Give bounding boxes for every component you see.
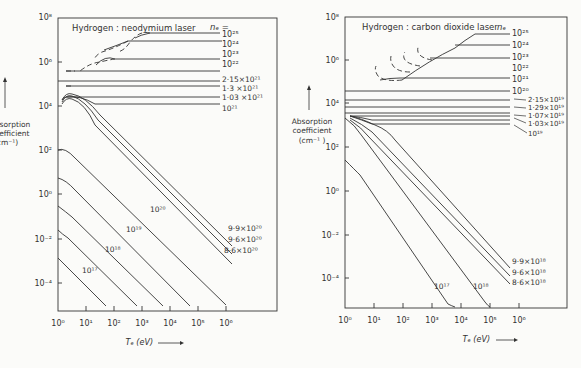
left-xtick-label: 10⁰ [51,319,64,328]
right-ytick-label: 10⁸ [326,13,339,22]
right-dashed-curves [375,46,432,81]
left-xtick-label: 10³ [135,319,148,328]
left-curve-label: 9·6×10²⁰ [228,235,262,244]
right-curve-label: 10¹⁸ [473,282,489,291]
left-curve-label: 2·15×10²¹ [222,75,261,84]
right-curve-label: 2·15×10¹⁹ [528,96,564,104]
left-dashed-curves [62,32,150,101]
right-curve-label: 10²² [512,64,529,73]
right-xtick-label: 10³ [425,316,438,325]
left-curve-label: 10²⁵ [222,30,239,39]
right-ytick-label: 10⁰ [326,187,339,196]
right-ytick-label: 10⁻⁴ [321,274,339,283]
right-xtick-label: 10¹ [367,316,380,325]
right-xtick-label: 10⁰ [338,316,351,325]
left-xtick-label: 10¹ [79,319,92,328]
left-ytick-label: 10⁴ [39,102,52,111]
left-curve-label: 10²³ [222,50,239,59]
right-y-arrowhead-icon [307,85,311,90]
left-curve-label: 8·6×10²⁰ [224,246,258,255]
right-ytick-label: 10² [326,143,339,152]
right-ytick-label: 10⁻² [321,231,339,240]
left-ytick-label: 10⁻⁴ [34,279,52,288]
figure: 10⁸ 10⁶ 10⁴ 10² 10⁰ 10⁻² 10⁻⁴ 10⁰ 10¹ 10… [0,0,581,368]
right-y-ticks [345,60,349,278]
right-y-axis-label: (cm⁻¹ ) [299,136,326,145]
right-curve-label: 10¹⁷ [434,282,450,291]
right-x-ticks [374,303,519,308]
left-curve-label: 1·3 ×10²¹ [222,84,258,93]
left-y-axis-label: coefficient [0,129,30,138]
left-ytick-label: 10⁶ [39,58,52,67]
left-chart-title: Hydrogen : neodymium laser [72,23,196,33]
right-curve-label: 10²³ [512,53,529,62]
left-curve-label: 10²² [222,60,239,69]
left-curve-label: 10²⁴ [222,40,239,49]
left-x-ticks [86,306,226,311]
right-xtick-label: 10⁵ [483,316,496,325]
right-x-axis-label: Tₑ (eV) [463,335,490,344]
right-ytick-label: 10⁴ [326,99,339,108]
left-ytick-label: 10⁰ [39,190,52,199]
left-ytick-label: 10⁸ [39,13,52,22]
left-xtick-label: 10² [107,319,120,328]
right-falling-curves [345,116,510,307]
right-curve-label: 8·6×10¹⁸ [512,278,546,287]
left-curve-label: 9·9×10²⁰ [228,224,262,233]
left-ytick-label: 10² [39,146,52,155]
left-y-ticks [58,62,62,283]
right-xtick-label: 10⁶ [512,316,525,325]
right-y-axis-label: Absorption [292,117,333,126]
right-xtick-label: 10⁴ [454,316,467,325]
left-y-axis-label: (cm⁻¹) [0,138,18,147]
left-xtick-label: 10⁶ [219,319,232,328]
right-curve-label: 10²⁵ [512,29,529,38]
right-label-pointers [514,99,527,133]
right-xtick-label: 10² [396,316,409,325]
left-labels: 10⁸ 10⁶ 10⁴ 10² 10⁰ 10⁻² 10⁻⁴ 10⁰ 10¹ 10… [0,13,263,347]
right-curve-label: 10²⁴ [512,41,529,50]
left-curve-label: 10¹⁸ [105,245,121,254]
left-xtick-label: 10⁴ [163,319,176,328]
left-y-axis-label: Absorption [0,120,31,129]
right-curve-label: 10²⁰ [512,87,529,96]
left-ytick-label: 10⁻² [34,235,52,244]
left-x-arrowhead-icon [180,341,184,345]
right-curve-label: 1·07×10¹⁹ [528,112,564,120]
left-y-arrowhead-icon [3,77,7,82]
right-y-axis-label: coefficient [292,126,331,135]
left-curve-label: 10²⁰ [150,205,166,214]
left-curve-label: 10¹⁹ [126,225,142,234]
right-curve-label: 9·6×10¹⁸ [512,268,546,277]
right-flat-curves [345,34,510,124]
right-curve-label: 1·29×10¹⁹ [528,104,564,112]
left-curve-label: 1·03 ×10²¹ [222,93,263,102]
right-legend-header: nₑ [497,22,506,32]
left-curve-label: 10²¹ [222,104,238,113]
left-x-axis-label: Tₑ (eV) [126,338,153,347]
right-curve-label: 9·9×10¹⁸ [512,257,546,266]
right-x-arrowhead-icon [514,338,518,342]
right-ytick-label: 10⁶ [326,56,339,65]
left-curve-label: 10¹⁷ [82,266,98,275]
right-curve-label: 10¹⁹ [528,130,543,138]
right-chart-title: Hydrogen : carbon dioxide laser [362,22,498,32]
right-curve-label: 10²¹ [512,75,529,84]
right-curve-label: 1·03×10¹⁹ [528,120,564,128]
left-xtick-label: 10⁵ [191,319,204,328]
